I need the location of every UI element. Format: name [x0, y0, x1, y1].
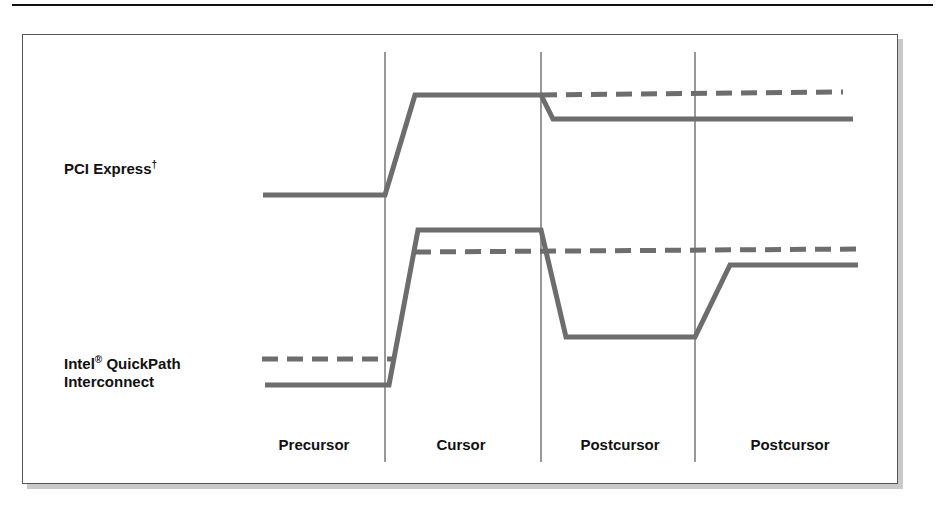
pcie-label: PCI Express†: [64, 160, 157, 178]
pcie-label-text: PCI Express: [64, 160, 152, 177]
pcie-target-waveform: [541, 92, 843, 95]
qpi-label: Intel® QuickPath Interconnect: [64, 355, 181, 391]
dagger-mark: †: [152, 159, 158, 170]
qpi-label-intel: Intel: [64, 355, 95, 372]
qpi-target-waveform-high: [415, 249, 860, 252]
pcie-waveform: [263, 95, 853, 195]
column-label-cursor: Cursor: [405, 436, 517, 453]
qpi-label-interconnect: Interconnect: [64, 373, 181, 391]
column-label-postcursor-2: Postcursor: [730, 436, 850, 453]
qpi-waveform: [265, 230, 858, 385]
qpi-label-quickpath: QuickPath: [102, 355, 180, 372]
column-label-precursor: Precursor: [258, 436, 370, 453]
column-label-postcursor-1: Postcursor: [560, 436, 680, 453]
